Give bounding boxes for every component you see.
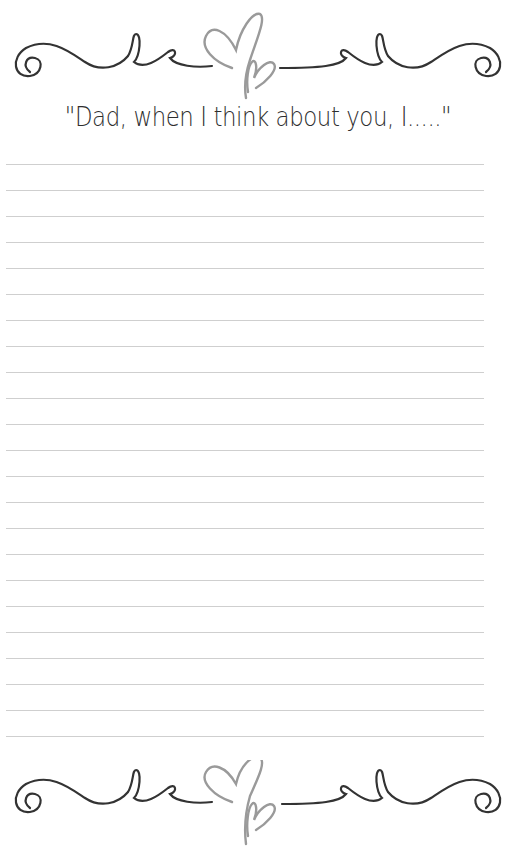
writing-line[interactable] [6, 606, 484, 607]
writing-line[interactable] [6, 554, 484, 555]
writing-line[interactable] [6, 736, 484, 737]
writing-line[interactable] [6, 424, 484, 425]
writing-line[interactable] [6, 632, 484, 633]
writing-line[interactable] [6, 190, 484, 191]
writing-line[interactable] [6, 216, 484, 217]
writing-line[interactable] [6, 320, 484, 321]
writing-line[interactable] [6, 450, 484, 451]
writing-line[interactable] [6, 398, 484, 399]
prompt-heading: "Dad, when I think about you, I....." [31, 102, 485, 132]
writing-line[interactable] [6, 346, 484, 347]
writing-line[interactable] [6, 528, 484, 529]
writing-line[interactable] [6, 268, 484, 269]
bottom-flourish-icon [0, 760, 516, 860]
writing-line[interactable] [6, 476, 484, 477]
writing-line[interactable] [6, 684, 484, 685]
top-flourish-icon [0, 0, 516, 100]
writing-line[interactable] [6, 294, 484, 295]
writing-line[interactable] [6, 710, 484, 711]
writing-line[interactable] [6, 580, 484, 581]
writing-line[interactable] [6, 242, 484, 243]
writing-line[interactable] [6, 164, 484, 165]
writing-line[interactable] [6, 658, 484, 659]
journal-page: "Dad, when I think about you, I....." [0, 0, 516, 863]
writing-line[interactable] [6, 372, 484, 373]
writing-line[interactable] [6, 502, 484, 503]
